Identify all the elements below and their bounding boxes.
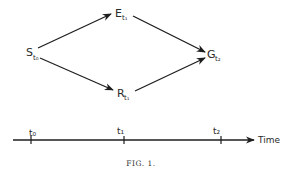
edge-s-to-e [38, 14, 111, 48]
node-r: R t₁ [117, 87, 130, 102]
svg-text:t₂: t₂ [215, 55, 221, 63]
svg-text:E: E [115, 7, 122, 20]
edge-e-to-g [133, 16, 205, 52]
node-e: E t₁ [115, 7, 128, 22]
node-s: S t₀ [26, 46, 39, 62]
svg-text:t₁: t₁ [124, 94, 130, 102]
edge-r-to-g [135, 58, 205, 91]
svg-text:S: S [26, 46, 33, 59]
tick-label-t2: t₂ [213, 126, 221, 136]
node-g: G t₂ [207, 48, 221, 63]
figure-diagram: S t₀ E t₁ R t₁ G t₂ t₀ t₁ t₂ Time FIG. 1… [0, 0, 282, 177]
svg-text:t₁: t₁ [122, 14, 128, 22]
time-axis-label: Time [257, 135, 280, 145]
edge-s-to-r [40, 58, 113, 90]
figure-caption: FIG. 1. [126, 159, 155, 168]
tick-label-t0: t₀ [29, 128, 37, 138]
svg-text:t₀: t₀ [33, 54, 39, 62]
tick-label-t1: t₁ [117, 126, 125, 136]
